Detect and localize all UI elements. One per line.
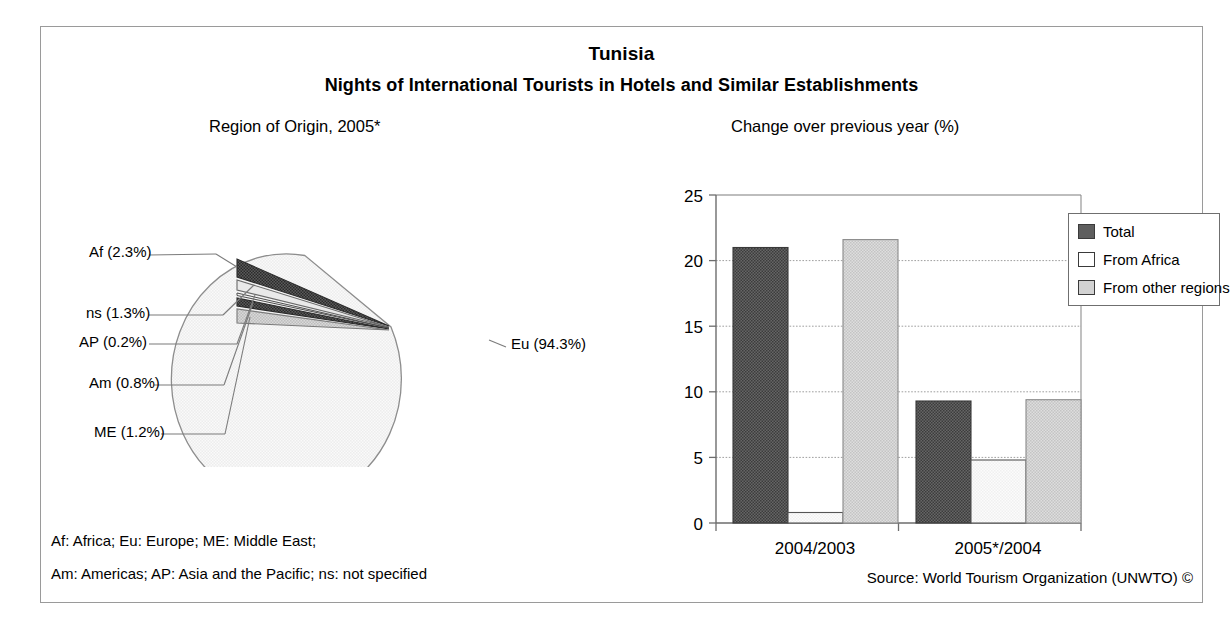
bar-other-2005-2004 bbox=[1026, 400, 1081, 523]
source-note: Source: World Tourism Organization (UNWT… bbox=[867, 569, 1193, 586]
pie-chart: Af (2.3%) ns (1.3%) AP (0.2%) Am (0.8%) … bbox=[41, 137, 641, 467]
legend-label-from-other-regions: From other regions bbox=[1103, 279, 1230, 296]
bar-chart: 25 20 15 10 5 0 bbox=[661, 137, 1206, 557]
bar-chart-category-labels: 2004/2003 2005*/2004 bbox=[775, 539, 1042, 557]
legend-item-total[interactable]: Total bbox=[1078, 223, 1211, 240]
legend-swatch-from-africa bbox=[1078, 252, 1095, 267]
chart-page: Tunisia Nights of International Tourists… bbox=[0, 0, 1231, 637]
svg-text:10: 10 bbox=[684, 383, 703, 402]
pie-label-ns: ns (1.3%) bbox=[86, 304, 150, 321]
pie-label-eu: Eu (94.3%) bbox=[511, 335, 586, 352]
pie-label-ap: AP (0.2%) bbox=[79, 333, 147, 350]
legend-label-total: Total bbox=[1103, 223, 1135, 240]
svg-text:20: 20 bbox=[684, 252, 703, 271]
svg-text:0: 0 bbox=[694, 515, 703, 534]
bar-total-2005-2004 bbox=[916, 401, 971, 523]
legend-swatch-total bbox=[1078, 224, 1095, 239]
bar-chart-legend: Total From Africa From other regions bbox=[1068, 213, 1220, 306]
bar-africa-2005-2004 bbox=[971, 460, 1026, 523]
legend-item-from-africa[interactable]: From Africa bbox=[1078, 251, 1211, 268]
bar-group-2005-2004 bbox=[916, 400, 1081, 523]
svg-text:5: 5 bbox=[694, 449, 703, 468]
pie-chart-caption: Region of Origin, 2005* bbox=[209, 117, 381, 136]
abbreviation-note-line-2: Am: Americas; AP: Asia and the Pacific; … bbox=[51, 565, 427, 582]
legend-swatch-from-other-regions bbox=[1078, 280, 1095, 295]
pie-label-am: Am (0.8%) bbox=[89, 374, 160, 391]
bar-chart-y-tick-labels: 25 20 15 10 5 0 bbox=[684, 187, 703, 534]
svg-text:2005*/2004: 2005*/2004 bbox=[955, 539, 1042, 557]
abbreviation-note-line-1: Af: Africa; Eu: Europe; ME: Middle East; bbox=[51, 532, 316, 549]
bar-group-2004-2003 bbox=[733, 240, 898, 523]
bar-africa-2004-2003 bbox=[788, 513, 843, 524]
svg-text:15: 15 bbox=[684, 318, 703, 337]
bar-chart-svg: 25 20 15 10 5 0 bbox=[661, 137, 1206, 557]
svg-text:25: 25 bbox=[684, 187, 703, 206]
legend-item-from-other-regions[interactable]: From other regions bbox=[1078, 279, 1211, 296]
page-subtitle: Nights of International Tourists in Hote… bbox=[41, 75, 1202, 96]
pie-label-me: ME (1.2%) bbox=[94, 423, 165, 440]
page-title: Tunisia bbox=[41, 43, 1202, 65]
pie-label-af: Af (2.3%) bbox=[89, 243, 152, 260]
svg-text:2004/2003: 2004/2003 bbox=[775, 539, 855, 557]
legend-label-from-africa: From Africa bbox=[1103, 251, 1180, 268]
bar-chart-caption: Change over previous year (%) bbox=[731, 117, 959, 136]
chart-frame: Tunisia Nights of International Tourists… bbox=[40, 26, 1203, 603]
bar-total-2004-2003 bbox=[733, 248, 788, 524]
pie-chart-svg bbox=[41, 137, 641, 467]
bar-other-2004-2003 bbox=[843, 240, 898, 523]
